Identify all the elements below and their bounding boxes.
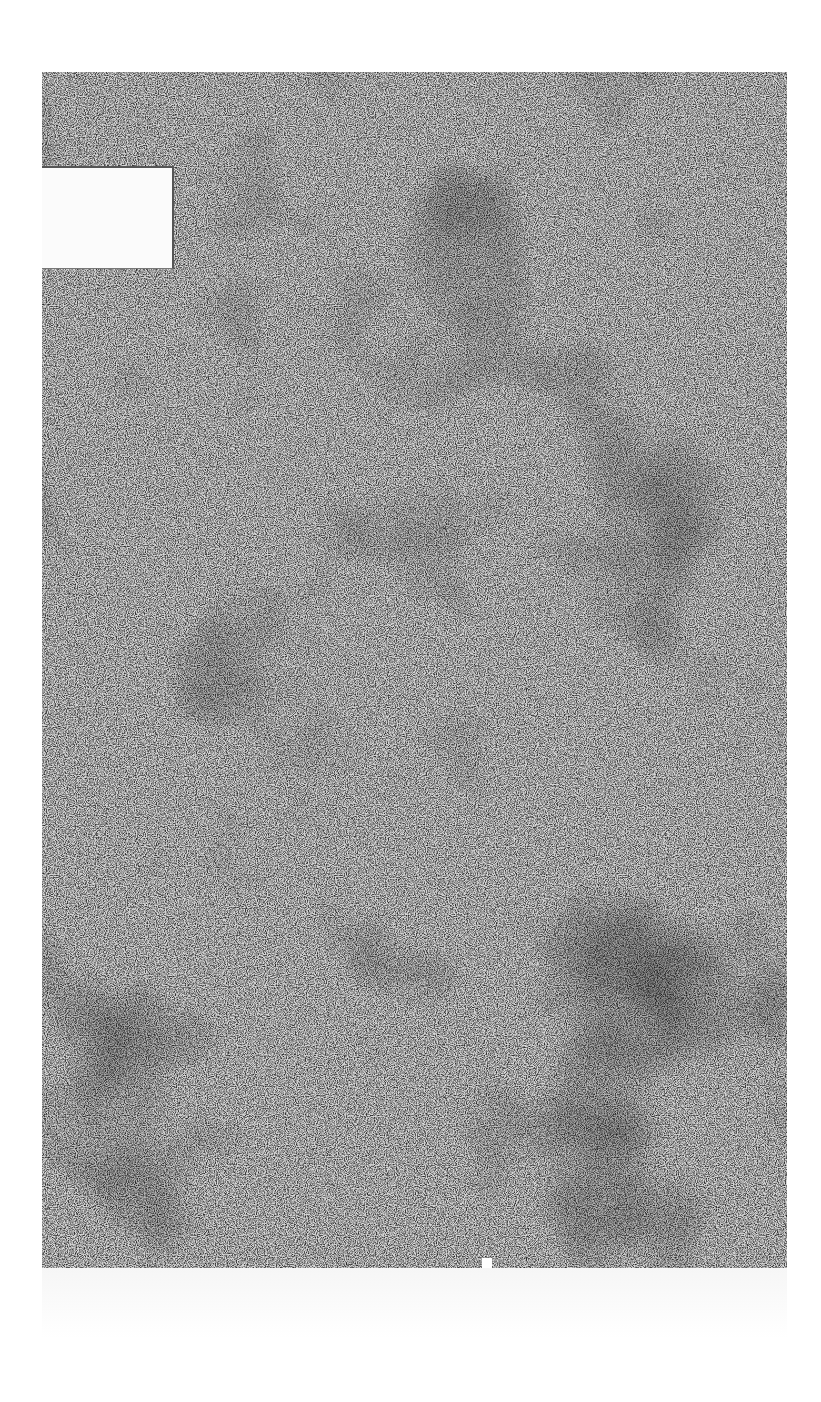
- blank-label: [42, 166, 174, 269]
- scan-shadow: [42, 1268, 787, 1338]
